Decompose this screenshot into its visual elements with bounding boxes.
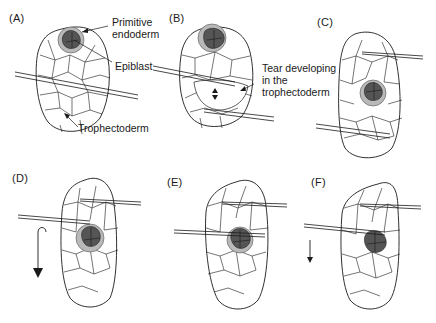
- embryo-f-drawing: [0, 0, 436, 323]
